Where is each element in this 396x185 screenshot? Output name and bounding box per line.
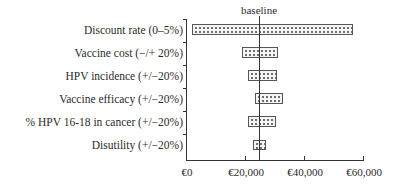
tornado-bar: [242, 47, 278, 58]
x-axis: [186, 160, 364, 161]
y-tick: [183, 65, 187, 66]
category-label-vaccine-cost: Vaccine cost (−/+ 20%): [75, 46, 183, 60]
x-tick: [186, 156, 187, 161]
x-tick-label: €40,000: [287, 166, 323, 178]
y-tick: [183, 42, 187, 43]
x-tick: [363, 156, 364, 161]
x-tick-label: €20,000: [228, 166, 264, 178]
baseline-label: baseline: [241, 4, 277, 16]
category-label-vaccine-efficacy: Vaccine efficacy (+/−20%): [59, 92, 183, 106]
y-axis: [186, 19, 187, 161]
tornado-bar: [248, 70, 277, 81]
x-tick-label: €0: [182, 166, 193, 178]
y-tick: [183, 134, 187, 135]
y-tick: [183, 111, 187, 112]
category-label-disutility: Disutility (+/−20%): [92, 138, 183, 152]
tornado-bar: [192, 24, 353, 35]
tornado-bar: [248, 116, 276, 127]
category-label-discount-rate: Discount rate (0–5%): [84, 23, 183, 37]
category-label-hpv-incidence: HPV incidence (+/−20%): [65, 69, 183, 83]
y-tick: [183, 88, 187, 89]
baseline-line: [259, 16, 260, 161]
x-tick: [245, 156, 246, 161]
category-label-hpv-16-18: % HPV 16-18 in cancer (+/−20%): [26, 115, 183, 129]
y-tick: [183, 19, 187, 20]
x-tick: [304, 156, 305, 161]
x-tick-label: €60,000: [346, 166, 382, 178]
